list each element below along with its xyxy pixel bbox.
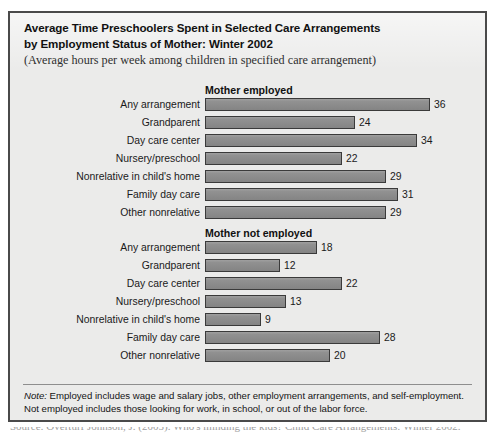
bar — [205, 206, 386, 219]
bar-value-label: 31 — [402, 188, 414, 201]
bar-row: Nursery/preschool22 — [10, 152, 485, 170]
panel-heading: Mother employed — [205, 84, 293, 96]
bar-value-label: 9 — [265, 313, 271, 326]
bar-value-label: 12 — [284, 259, 296, 272]
bar-value-label: 29 — [390, 206, 402, 219]
bar-category-label: Nursery/preschool — [10, 295, 200, 308]
note-divider — [23, 384, 472, 385]
bar — [205, 259, 280, 272]
bar-row: Nursery/preschool13 — [10, 295, 485, 313]
source-caption: Source: Overturf Johnson, J. (2005). Who… — [10, 427, 486, 435]
bar-category-label: Other nonrelative — [10, 349, 200, 362]
bar-row: Day care center34 — [10, 134, 485, 152]
figure-title-line-2: by Employment Status of Mother: Winter 2… — [24, 36, 474, 52]
bar — [205, 116, 355, 129]
bar-category-label: Grandparent — [10, 259, 200, 272]
bar — [205, 152, 342, 165]
bar-category-label: Nursery/preschool — [10, 152, 200, 165]
source-caption-text: Source: Overturf Johnson, J. (2005). Who… — [10, 427, 486, 432]
bar — [205, 331, 380, 344]
bar-row: Day care center22 — [10, 277, 485, 295]
bar — [205, 241, 317, 254]
bar-category-label: Nonrelative in child's home — [10, 170, 200, 183]
note-label: Note: — [24, 390, 47, 401]
bar-category-label: Any arrangement — [10, 241, 200, 254]
bar — [205, 98, 430, 111]
bar-value-label: 29 — [390, 170, 402, 183]
bar — [205, 295, 286, 308]
note-line-2: Not employed includes those looking for … — [24, 403, 476, 416]
bar-row: Any arrangement18 — [10, 241, 485, 259]
bar-category-label: Day care center — [10, 277, 200, 290]
figure-subtitle: (Average hours per week among children i… — [24, 53, 474, 67]
note-line-1: Note: Employed includes wage and salary … — [24, 390, 476, 403]
bar-row: Grandparent24 — [10, 116, 485, 134]
bar-value-label: 34 — [421, 134, 433, 147]
note-text-1: Employed includes wage and salary jobs, … — [47, 390, 464, 401]
bar-value-label: 22 — [346, 152, 358, 165]
bar — [205, 277, 342, 290]
bar — [205, 313, 261, 326]
bar-category-label: Grandparent — [10, 116, 200, 129]
bar — [205, 170, 386, 183]
bar-value-label: 20 — [334, 349, 346, 362]
bar — [205, 134, 417, 147]
bar — [205, 349, 330, 362]
bar-row: Family day care31 — [10, 188, 485, 206]
bar-row: Nonrelative in child's home29 — [10, 170, 485, 188]
bar-category-label: Family day care — [10, 331, 200, 344]
bar-value-label: 24 — [359, 116, 371, 129]
bar-value-label: 18 — [321, 241, 333, 254]
bar-row: Other nonrelative20 — [10, 349, 485, 367]
bar-row: Grandparent12 — [10, 259, 485, 277]
bar-value-label: 13 — [290, 295, 302, 308]
figure-frame: Average Time Preschoolers Spent in Selec… — [8, 11, 487, 422]
bar-category-label: Any arrangement — [10, 98, 200, 111]
bar-category-label: Other nonrelative — [10, 206, 200, 219]
panel-heading: Mother not employed — [205, 227, 312, 239]
bar — [205, 188, 398, 201]
figure-title-line-1: Average Time Preschoolers Spent in Selec… — [24, 20, 474, 36]
bar-row: Any arrangement36 — [10, 98, 485, 116]
bar-category-label: Day care center — [10, 134, 200, 147]
bar-row: Nonrelative in child's home9 — [10, 313, 485, 331]
figure-page: Average Time Preschoolers Spent in Selec… — [0, 0, 496, 435]
bar-category-label: Nonrelative in child's home — [10, 313, 200, 326]
bar-value-label: 28 — [384, 331, 396, 344]
figure-title-block: Average Time Preschoolers Spent in Selec… — [24, 20, 474, 67]
bar-category-label: Family day care — [10, 188, 200, 201]
bar-row: Other nonrelative29 — [10, 206, 485, 224]
bar-row: Family day care28 — [10, 331, 485, 349]
bar-value-label: 36 — [434, 98, 446, 111]
bar-value-label: 22 — [346, 277, 358, 290]
figure-note: Note: Employed includes wage and salary … — [24, 390, 476, 415]
